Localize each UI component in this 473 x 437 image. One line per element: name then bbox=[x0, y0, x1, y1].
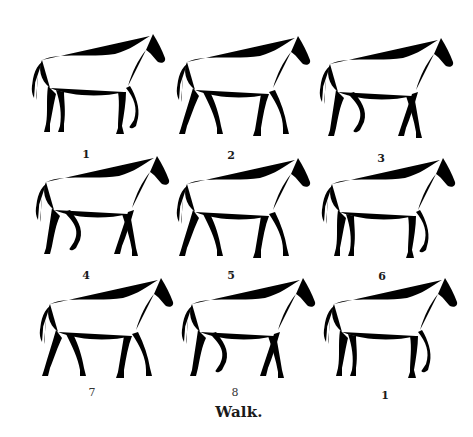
horse-illustration bbox=[24, 150, 174, 265]
horse-illustration bbox=[310, 152, 460, 267]
walk-gait-figure: 1 2 3 4 5 6 7 8 1 Walk. bbox=[0, 0, 473, 437]
horse-drawing-8 bbox=[170, 272, 320, 387]
horse-illustration bbox=[312, 272, 462, 387]
horse-drawing-5 bbox=[165, 152, 315, 267]
horse-drawing-2 bbox=[165, 30, 315, 145]
horse-drawing-1 bbox=[20, 28, 170, 143]
horse-illustration bbox=[308, 32, 458, 147]
panel-label: 7 bbox=[89, 386, 96, 399]
horse-illustration bbox=[28, 272, 178, 387]
horse-illustration bbox=[170, 272, 320, 387]
horse-drawing-3 bbox=[308, 32, 458, 147]
panel-label: 1 bbox=[381, 389, 389, 402]
horse-drawing-7 bbox=[28, 272, 178, 387]
horse-illustration bbox=[165, 30, 315, 145]
panel-label: 8 bbox=[232, 386, 239, 399]
horse-drawing-6 bbox=[310, 152, 460, 267]
horse-drawing-9 bbox=[312, 272, 462, 387]
horse-illustration bbox=[20, 28, 170, 143]
horse-drawing-4 bbox=[24, 150, 174, 265]
horse-illustration bbox=[165, 152, 315, 267]
figure-caption: Walk. bbox=[215, 403, 263, 421]
